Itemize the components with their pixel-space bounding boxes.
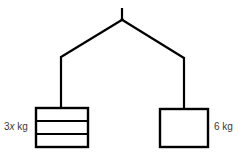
balance-diagram — [0, 0, 243, 163]
diagram-canvas: 3x kg 6 kg — [0, 0, 243, 163]
left-mass-unit: kg — [17, 121, 28, 132]
right-mass-value: 6 — [214, 121, 220, 132]
right-mass-unit: kg — [222, 121, 233, 132]
right-mass-block — [160, 109, 208, 147]
right-beam-line — [122, 20, 184, 59]
left-mass-block — [36, 108, 88, 147]
left-beam-line — [61, 20, 123, 58]
left-mass-variable: x — [10, 121, 15, 132]
right-mass-label: 6 kg — [214, 122, 233, 132]
left-mass-label: 3x kg — [4, 122, 28, 132]
